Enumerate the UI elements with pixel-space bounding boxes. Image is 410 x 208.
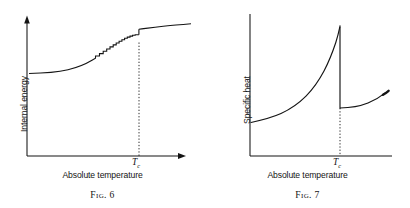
figure-6-curve-above-critical — [139, 24, 191, 30]
figure-6-curve-below-critical — [29, 35, 139, 74]
figure-6-y-axis-label: Internal energy — [19, 76, 29, 132]
figure-7-curve-below-critical — [251, 27, 340, 122]
figure-7-caption-number: 7 — [315, 189, 320, 200]
figure-6-x-axis-arrow-icon — [178, 153, 186, 159]
figure-6-critical-tick-label: Tc — [132, 157, 140, 169]
figure-6: Internal energy Tc Absolute temperature … — [0, 0, 205, 208]
figure-sheet: Internal energy Tc Absolute temperature … — [0, 0, 410, 208]
figure-7-curve-terminal-stroke — [383, 91, 389, 95]
figure-6-caption: Fig. 6 — [0, 189, 205, 200]
figure-6-y-axis-arrow-icon — [24, 16, 30, 24]
figure-7-critical-tick-sub: c — [338, 162, 341, 169]
figure-7: Specific heat Tc Absolute temperature Fi… — [205, 0, 410, 208]
figure-7-y-axis-label: Specific heat — [242, 76, 252, 124]
figure-6-critical-tick-sub: c — [137, 162, 140, 169]
figure-7-x-axis-label: Absolute temperature — [205, 170, 410, 180]
figure-6-caption-number: 6 — [110, 189, 115, 200]
figure-7-caption: Fig. 7 — [205, 189, 410, 200]
figure-6-x-axis-label: Absolute temperature — [0, 170, 205, 180]
figure-7-caption-prefix: Fig. — [295, 189, 312, 200]
figure-6-caption-prefix: Fig. — [90, 189, 107, 200]
figure-7-curve-above-critical — [340, 92, 386, 108]
figure-7-critical-tick-label: Tc — [333, 157, 341, 169]
